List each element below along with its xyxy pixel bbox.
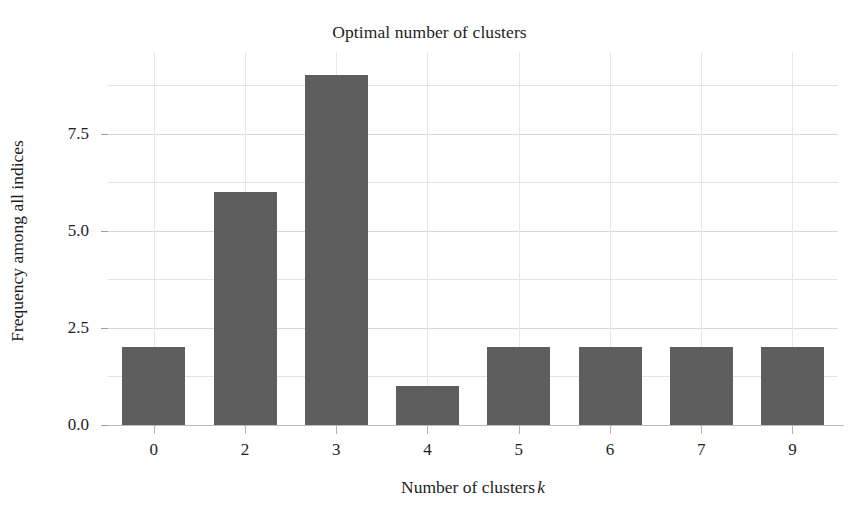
x-tick-label: 2 [241, 440, 250, 460]
gridline-major [108, 134, 838, 135]
x-tick-mark [792, 426, 793, 434]
x-axis-label: Number of clustersk [108, 477, 838, 498]
bar [579, 347, 642, 425]
x-tick-label: 0 [149, 440, 158, 460]
x-tick-label: 7 [697, 440, 706, 460]
x-tick-label: 5 [514, 440, 523, 460]
y-tick-mark [101, 134, 108, 135]
gridline-minor [108, 182, 838, 183]
bar [305, 75, 368, 425]
chart-title: Optimal number of clusters [0, 22, 859, 43]
bar [670, 347, 733, 425]
bar [487, 347, 550, 425]
y-tick-label: 0.0 [68, 415, 89, 435]
gridline-minor [108, 85, 838, 86]
y-tick-mark [101, 425, 108, 426]
y-tick-label: 5.0 [68, 221, 89, 241]
bar [122, 347, 185, 425]
plot-panel [108, 52, 838, 425]
x-tick-label: 9 [788, 440, 797, 460]
gridline-vertical [427, 52, 428, 425]
x-tick-mark [701, 426, 702, 434]
x-tick-label: 3 [332, 440, 341, 460]
x-tick-label: 6 [606, 440, 615, 460]
x-tick-mark [336, 426, 337, 434]
x-tick-mark [245, 426, 246, 434]
x-tick-mark [154, 426, 155, 434]
x-axis-label-symbol: k [535, 477, 545, 497]
y-tick-label: 7.5 [68, 124, 89, 144]
bar [761, 347, 824, 425]
bar [214, 192, 277, 425]
x-tick-mark [427, 426, 428, 434]
x-tick-mark [519, 426, 520, 434]
bar [396, 386, 459, 425]
x-axis-label-text: Number of clusters [401, 477, 535, 497]
y-axis-tick-labels: 0.02.55.07.5 [0, 0, 101, 521]
x-tick-mark [610, 426, 611, 434]
chart-figure: Optimal number of clusters Frequency amo… [0, 0, 859, 521]
x-tick-label: 4 [423, 440, 432, 460]
y-tick-mark [101, 231, 108, 232]
y-tick-mark [101, 328, 108, 329]
y-tick-label: 2.5 [68, 318, 89, 338]
x-axis-line [108, 425, 844, 426]
